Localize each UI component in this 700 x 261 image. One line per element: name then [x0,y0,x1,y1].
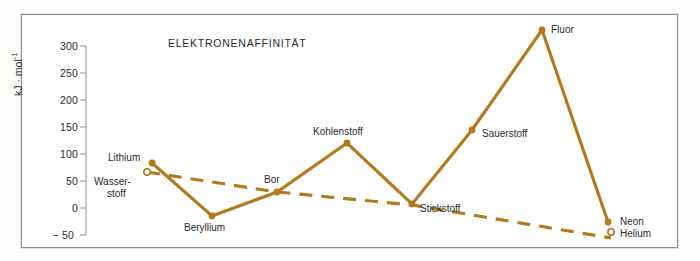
label-lithium: Lithium [108,152,140,164]
marker-fluor [539,27,546,34]
label-neon: Neon [620,216,644,228]
marker-sauerstoff [469,127,476,134]
marker-neon [605,219,612,226]
label-bor: Bor [264,174,280,186]
marker-bor [274,189,281,196]
label-kohlenstoff: Kohlenstoff [313,126,363,138]
label-stickstoff: Stickstoff [420,203,460,215]
series-period2-solid [152,30,608,222]
label-fluor: Fluor [551,24,574,36]
marker-helium [608,229,614,235]
marker-lithium [149,160,156,167]
marker-beryllium [209,213,216,220]
chart-figure: 300 250 200 150 100 50 0 − 50 kJ · mol-1… [0,0,700,261]
label-wasserstoff-line2: stoff [107,188,126,200]
label-beryllium: Beryllium [184,222,225,234]
marker-stickstoff [409,201,416,208]
label-sauerstoff: Sauerstoff [482,128,527,140]
label-wasserstoff-line1: Wasser- [94,176,131,188]
label-helium: Helium [620,228,651,240]
marker-kohlenstoff [344,140,351,147]
marker-wasserstoff [144,169,150,175]
